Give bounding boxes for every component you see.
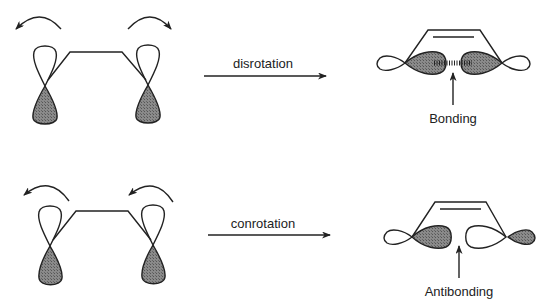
- p-orbital-top-lobe: [39, 206, 62, 246]
- p-orbital-bottom-lobe-shaded: [136, 85, 160, 123]
- orbital-lobe-white: [466, 226, 506, 249]
- p-orbital-bottom-lobe-shaded: [33, 86, 57, 124]
- electrocyclic-diagram: disrotation Bonding conrotation: [0, 0, 549, 308]
- p-orbital-top-lobe: [137, 45, 160, 85]
- disrotation-label: disrotation: [233, 56, 293, 71]
- carbon-backbone: [53, 211, 151, 240]
- p-orbital-top-lobe: [34, 46, 57, 86]
- top-product-bonding: Bonding: [377, 30, 530, 126]
- curved-arrow-icon: [129, 186, 173, 202]
- curved-arrow-icon: [24, 186, 69, 201]
- curved-arrow-icon: [16, 17, 61, 29]
- orbital-lobe-white: [502, 56, 530, 70]
- antibonding-label: Antibonding: [425, 284, 494, 299]
- p-orbital-bottom-lobe-shaded: [39, 246, 62, 285]
- curved-arrow-icon: [128, 17, 171, 29]
- orbital-lobe-shaded: [508, 230, 535, 244]
- bottom-product-antibonding: Antibonding: [384, 202, 535, 299]
- bonding-label: Bonding: [429, 111, 477, 126]
- conrotation-arrow: conrotation: [208, 216, 330, 235]
- bottom-reactant: [24, 186, 173, 285]
- disrotation-arrow: disrotation: [204, 56, 326, 76]
- orbital-lobe-white: [384, 230, 412, 244]
- p-orbital-bottom-lobe-shaded: [142, 245, 165, 284]
- orbital-lobe-white: [377, 56, 405, 70]
- p-orbital-top-lobe: [142, 205, 165, 245]
- carbon-backbone: [48, 52, 146, 80]
- top-reactant: [16, 17, 171, 124]
- conrotation-label: conrotation: [231, 216, 295, 231]
